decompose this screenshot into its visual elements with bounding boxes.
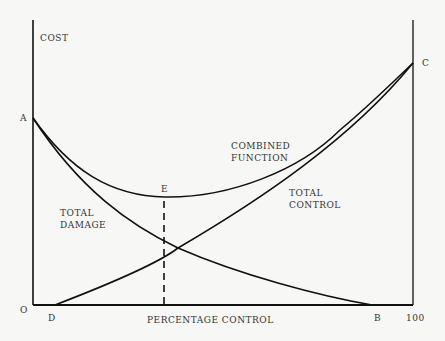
damage-label-1: TOTAL	[60, 207, 94, 219]
point-a-label: A	[20, 112, 27, 124]
damage-label-2: DAMAGE	[60, 219, 106, 231]
x-max-label: 100	[406, 312, 425, 324]
x-axis-label: PERCENTAGE CONTROL	[147, 314, 274, 326]
origin-label: O	[20, 304, 28, 316]
point-b-label: B	[374, 312, 381, 324]
combined-label-2: FUNCTION	[231, 152, 288, 164]
point-d-label: D	[48, 312, 56, 324]
combined-label-1: COMBINED	[231, 140, 290, 152]
combined-function-curve	[33, 63, 413, 197]
cost-diagram	[0, 0, 445, 341]
control-label-1: TOTAL	[289, 187, 323, 199]
y-axis-label: COST	[40, 32, 68, 44]
point-e-label: E	[161, 183, 168, 195]
control-label-2: CONTROL	[289, 199, 341, 211]
point-c-label: C	[422, 57, 429, 69]
